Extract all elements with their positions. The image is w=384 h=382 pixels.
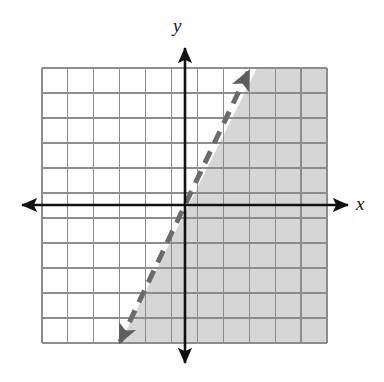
- y-axis-label: y: [173, 16, 181, 35]
- coordinate-plane-svg: [0, 0, 384, 382]
- x-axis-label: x: [356, 194, 364, 213]
- graph-figure: y x: [0, 0, 384, 382]
